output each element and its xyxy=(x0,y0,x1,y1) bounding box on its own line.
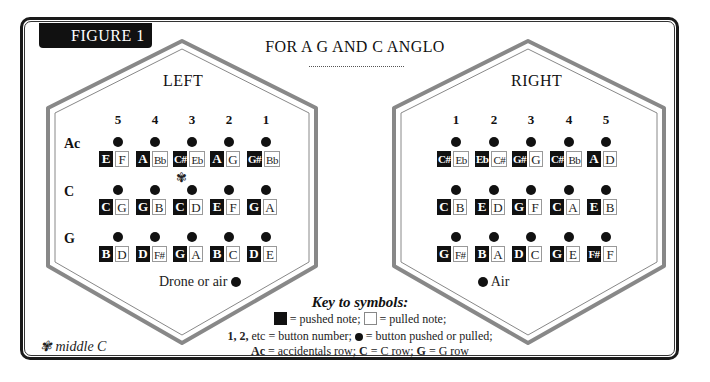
concertina-button: C#Eb xyxy=(437,151,469,167)
c-legend: = C row; xyxy=(371,344,414,358)
pushed-legend: = pushed note; xyxy=(290,312,361,326)
button-dot-icon[interactable] xyxy=(113,137,123,147)
button-number: 5 xyxy=(108,112,128,128)
pushed-note: C xyxy=(437,199,451,215)
row-label: G xyxy=(64,231,75,247)
pushed-note: E xyxy=(587,199,601,215)
row-label: Ac xyxy=(64,136,80,152)
pulled-note: B xyxy=(603,199,617,215)
left-side-title: LEFT xyxy=(163,72,203,90)
pushed-note: A xyxy=(136,151,150,167)
c-legend-bold: C xyxy=(359,344,368,358)
button-dot-icon[interactable] xyxy=(261,232,271,242)
concertina-button: EB xyxy=(587,199,617,215)
pulled-note: A xyxy=(189,246,203,262)
concertina-button: GE xyxy=(550,246,580,262)
button-dot-icon[interactable] xyxy=(451,232,461,242)
concertina-button: CD xyxy=(173,199,203,215)
pushed-note: D xyxy=(247,246,261,262)
pulled-note: C xyxy=(528,246,542,262)
button-dot-icon[interactable] xyxy=(601,232,611,242)
pulled-note: A xyxy=(566,199,580,215)
g-legend-bold: G xyxy=(417,344,426,358)
button-dot-icon[interactable] xyxy=(526,232,536,242)
pulled-note: D xyxy=(189,199,203,215)
button-dot-icon[interactable] xyxy=(261,185,271,195)
pulled-note: F xyxy=(115,151,129,167)
button-number: 1 xyxy=(446,112,466,128)
pulled-note: A xyxy=(491,246,505,262)
pulled-note: A xyxy=(263,199,277,215)
ac-legend-bold: Ac xyxy=(251,344,265,358)
air-button-icon xyxy=(478,277,488,287)
button-dot-icon[interactable] xyxy=(451,137,461,147)
pulled-note: D xyxy=(115,246,129,262)
pulled-note: Bb xyxy=(566,151,582,167)
button-dot-icon[interactable] xyxy=(526,185,536,195)
button-dot-icon[interactable] xyxy=(224,232,234,242)
concertina-button: CG xyxy=(99,199,129,215)
pushed-note: G xyxy=(550,246,564,262)
pulled-note: E xyxy=(263,246,277,262)
concertina-button: BA xyxy=(475,246,505,262)
button-dot-icon[interactable] xyxy=(113,232,123,242)
button-dot-icon[interactable] xyxy=(489,185,499,195)
concertina-button: CB xyxy=(437,199,467,215)
button-number: 4 xyxy=(559,112,579,128)
pushed-note: G xyxy=(512,199,526,215)
button-dot-icon[interactable] xyxy=(150,185,160,195)
button-dot-icon[interactable] xyxy=(150,137,160,147)
button-dot-icon[interactable] xyxy=(224,137,234,147)
button-dot-icon[interactable] xyxy=(489,232,499,242)
pushed-note: A xyxy=(587,151,601,167)
concertina-button: G#Bb xyxy=(247,151,280,167)
button-number: 3 xyxy=(182,112,202,128)
button-dot-icon[interactable] xyxy=(187,137,197,147)
pulled-note: F xyxy=(528,199,542,215)
pulled-note: D xyxy=(603,151,617,167)
concertina-button: C#Bb xyxy=(550,151,582,167)
pulled-note: Eb xyxy=(189,151,204,167)
button-dot-icon[interactable] xyxy=(564,185,574,195)
row-label: C xyxy=(64,184,74,200)
numbers-legend-bold: 1, 2, xyxy=(227,329,248,343)
button-dot-icon[interactable] xyxy=(187,232,197,242)
drone-label: Drone or air xyxy=(159,274,227,289)
pushed-note: E xyxy=(475,199,489,215)
pushed-note: Eb xyxy=(475,151,489,167)
concertina-button: DC xyxy=(512,246,542,262)
concertina-button: GA xyxy=(173,246,203,262)
pulled-note: B xyxy=(152,199,166,215)
button-dot-icon[interactable] xyxy=(113,185,123,195)
button-number: 2 xyxy=(484,112,504,128)
pulled-note: G xyxy=(115,199,129,215)
button-dot-icon[interactable] xyxy=(224,185,234,195)
concertina-button: AG xyxy=(210,151,240,167)
pulled-legend: = pulled note; xyxy=(380,312,447,326)
button-dot-icon[interactable] xyxy=(451,185,461,195)
button-dot-icon[interactable] xyxy=(601,137,611,147)
concertina-button: AD xyxy=(587,151,617,167)
key-title: Key to symbols: xyxy=(260,294,460,311)
button-dot-icon[interactable] xyxy=(489,137,499,147)
button-dot-icon[interactable] xyxy=(150,232,160,242)
button-dot-icon[interactable] xyxy=(526,137,536,147)
pulled-note: F# xyxy=(453,246,468,262)
button-dot-icon[interactable] xyxy=(564,232,574,242)
pulled-note: B xyxy=(453,199,467,215)
concertina-button: ABb xyxy=(136,151,168,167)
button-dot-icon[interactable] xyxy=(187,185,197,195)
drone-button-icon xyxy=(231,277,241,287)
concertina-button: GF# xyxy=(437,246,468,262)
button-dot-icon[interactable] xyxy=(261,137,271,147)
button-number: 1 xyxy=(256,112,276,128)
pushed-note: C xyxy=(550,199,564,215)
pushed-note: G# xyxy=(512,151,527,167)
button-dot-icon[interactable] xyxy=(601,185,611,195)
pushed-note: E xyxy=(210,199,224,215)
ac-legend: = accidentals row; xyxy=(268,344,356,358)
button-number: 3 xyxy=(521,112,541,128)
pushed-note: G xyxy=(136,199,150,215)
pulled-note: C# xyxy=(491,151,507,167)
button-dot-icon[interactable] xyxy=(564,137,574,147)
